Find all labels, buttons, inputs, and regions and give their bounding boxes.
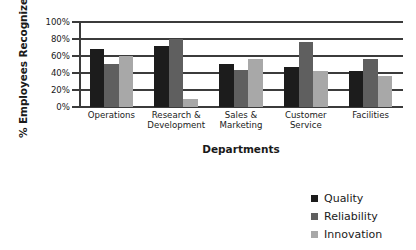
bar	[378, 76, 393, 107]
x-axis-tick-label: Operations	[79, 110, 144, 120]
y-axis-tick-label: 40%	[26, 69, 70, 78]
x-axis-tick-label-line: Operations	[79, 110, 144, 120]
bar-group	[79, 22, 144, 107]
y-axis-tick-mark	[72, 72, 79, 73]
y-axis-tick-label: 20%	[26, 86, 70, 95]
bar	[234, 70, 249, 107]
y-axis-tick-mark	[72, 89, 79, 90]
legend-item: Quality	[311, 189, 416, 207]
legend-swatch-icon	[311, 195, 318, 202]
bar-group	[273, 22, 338, 107]
y-axis-tick-mark	[72, 21, 79, 22]
y-axis-tick-label: 60%	[26, 52, 70, 61]
bar-group	[209, 22, 274, 107]
bar	[183, 99, 198, 108]
y-axis-tick-mark	[72, 38, 79, 39]
x-axis-tick-label: Sales &Marketing	[209, 110, 274, 130]
bar	[349, 71, 364, 107]
bar	[104, 64, 119, 107]
bar-group	[144, 22, 209, 107]
y-axis-tick-label: 80%	[26, 35, 70, 44]
bar	[363, 59, 378, 107]
legend-item: Innovation	[311, 225, 416, 243]
bar	[169, 39, 184, 107]
bar	[119, 56, 134, 107]
y-axis-tick-mark	[72, 55, 79, 56]
bar	[154, 46, 169, 107]
y-axis-tick-label: 0%	[26, 103, 70, 112]
x-axis-tick-label-line: Development	[144, 120, 209, 130]
x-axis-tick-label: CustomerService	[273, 110, 338, 130]
legend-label: Quality	[324, 193, 363, 204]
bar	[248, 59, 263, 107]
legend-swatch-icon	[311, 213, 318, 220]
bar-chart-figure: % Employees Recognized 0%20%40%60%80%100…	[0, 0, 416, 250]
y-axis-tick-labels: 0%20%40%60%80%100%	[24, 0, 70, 130]
bar-group	[338, 22, 403, 107]
x-axis-tick-label-line: Research &	[144, 110, 209, 120]
bar	[313, 71, 328, 107]
bar	[90, 49, 105, 107]
bar	[219, 64, 234, 107]
y-axis-tick-label: 100%	[26, 18, 70, 27]
x-axis-tick-label: Research &Development	[144, 110, 209, 130]
x-axis-tick-label-line: Service	[273, 120, 338, 130]
legend-item: Reliability	[311, 207, 416, 225]
x-axis-tick-label-line: Marketing	[209, 120, 274, 130]
x-axis-tick-labels: OperationsResearch &DevelopmentSales &Ma…	[79, 110, 403, 136]
x-axis-title: Departments	[79, 143, 403, 155]
legend-label: Innovation	[324, 229, 382, 240]
bar	[284, 67, 299, 107]
x-axis-tick-label: Facilities	[338, 110, 403, 120]
x-axis-tick-label-line: Sales &	[209, 110, 274, 120]
chart-legend: QualityReliabilityInnovation	[311, 189, 416, 243]
bars-layer	[79, 22, 403, 107]
legend-swatch-icon	[311, 231, 318, 238]
x-axis-tick-label-line: Customer	[273, 110, 338, 120]
x-axis-tick-label-line: Facilities	[338, 110, 403, 120]
legend-label: Reliability	[324, 211, 378, 222]
y-axis-tick-mark	[72, 106, 79, 107]
bar	[299, 42, 314, 107]
